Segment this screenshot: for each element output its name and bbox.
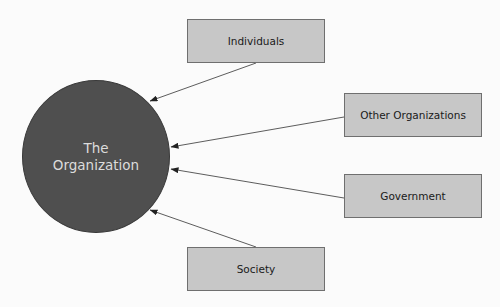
node-label: Government [380, 190, 445, 202]
arrow-government-to-organization [171, 169, 344, 198]
node-government: Government [344, 174, 482, 218]
node-label: Society [237, 263, 276, 275]
arrow-society-to-organization [150, 210, 256, 247]
organization-label-line1: The [83, 140, 108, 157]
node-other-organizations: Other Organizations [344, 93, 482, 137]
node-label: Other Organizations [360, 109, 466, 121]
organization-circle: The Organization [22, 80, 170, 233]
organization-label-line2: Organization [53, 157, 139, 174]
node-label: Individuals [228, 35, 285, 47]
arrow-individuals-to-organization [150, 63, 256, 101]
arrow-other-organizations-to-organization [171, 117, 344, 147]
node-individuals: Individuals [187, 19, 325, 63]
node-society: Society [187, 247, 325, 291]
